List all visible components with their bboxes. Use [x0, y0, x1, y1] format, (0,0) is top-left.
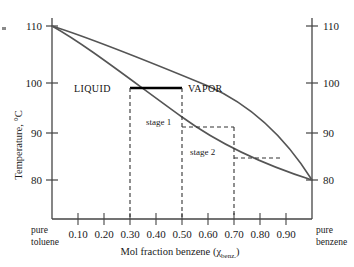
x-tick-label-060: 0.60 — [198, 228, 218, 240]
y-tick-label-90: 90 — [31, 127, 43, 139]
x-axis-tick-labels: 0.10 0.20 0.30 0.40 0.50 0.60 0.70 0.80 … — [68, 228, 296, 240]
x-tick-label-080: 0.80 — [250, 228, 270, 240]
pure-benzene-line1: pure — [316, 225, 333, 235]
stage-2-label: stage 2 — [190, 147, 215, 157]
x-tick-label-050: 0.50 — [172, 228, 192, 240]
x-tick-label-090: 0.90 — [276, 228, 296, 240]
vapor-region-label: VAPOR — [188, 83, 223, 94]
y-tick-label-right-100: 100 — [323, 77, 340, 89]
pure-toluene-line2: toluene — [31, 237, 59, 247]
x-tick-label-020: 0.20 — [94, 228, 114, 240]
y-tick-label-right-80: 80 — [323, 174, 335, 186]
phase-diagram-figure: 110 100 90 80 110 100 90 80 0.10 0.20 0.… — [0, 0, 354, 267]
y-tick-label-right-90: 90 — [323, 127, 335, 139]
y-tick-label-right-110: 110 — [323, 20, 340, 32]
x-axis-title-main: Mol fraction benzene ( — [120, 246, 216, 258]
x-tick-label-070: 0.70 — [224, 228, 244, 240]
txy-phase-diagram-svg: 110 100 90 80 110 100 90 80 0.10 0.20 0.… — [0, 0, 354, 267]
x-axis-title-end: ) — [236, 246, 240, 258]
stage-1-label: stage 1 — [146, 117, 171, 127]
x-axis-title-subscript: benz. — [221, 252, 236, 260]
y-axis-title: Temperature, °C — [13, 110, 24, 179]
liquid-region-label: LIQUID — [74, 83, 111, 94]
x-tick-label-040: 0.40 — [146, 228, 166, 240]
edge-artifact-mark — [2, 27, 6, 30]
y-tick-label-110: 110 — [26, 20, 43, 32]
x-tick-label-010: 0.10 — [68, 228, 88, 240]
pure-benzene-line2: benzene — [316, 237, 347, 247]
pure-toluene-line1: pure — [31, 225, 48, 235]
y-tick-label-80: 80 — [31, 174, 43, 186]
y-tick-label-100: 100 — [26, 77, 43, 89]
x-tick-label-030: 0.30 — [120, 228, 140, 240]
